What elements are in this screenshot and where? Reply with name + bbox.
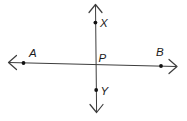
diagram-background <box>0 0 187 121</box>
point-p-label: P <box>99 52 107 64</box>
point-a-label: A <box>28 47 37 59</box>
point-y-label: Y <box>101 85 110 97</box>
point-b-dot <box>159 64 163 68</box>
diagram-svg: A B X Y P <box>0 0 187 121</box>
geometry-diagram: A B X Y P <box>0 0 187 121</box>
point-y-dot <box>94 88 98 92</box>
point-x-dot <box>94 21 98 25</box>
point-a-dot <box>22 61 26 65</box>
point-x-label: X <box>99 17 109 29</box>
point-b-label: B <box>156 46 164 58</box>
